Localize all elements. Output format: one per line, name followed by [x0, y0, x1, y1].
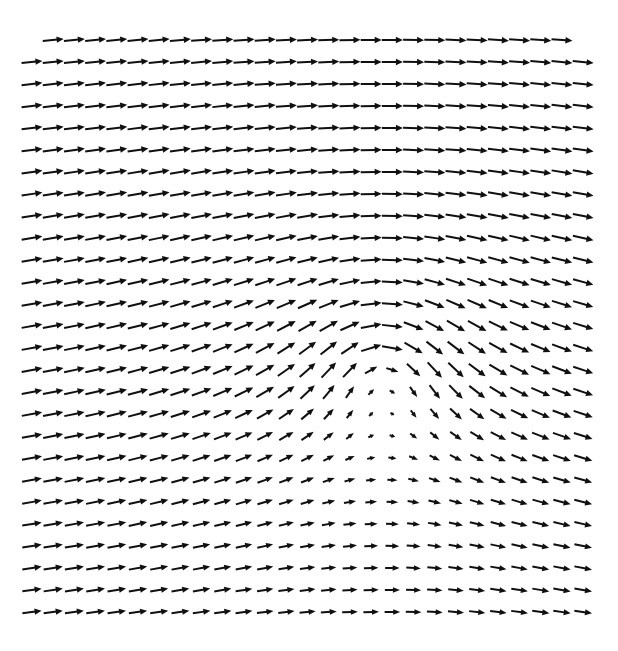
- field-arrow-shaft: [170, 237, 184, 240]
- field-arrow-head: [563, 478, 571, 484]
- field-arrow: [278, 364, 295, 376]
- field-arrow-head: [433, 477, 440, 482]
- field-arrow-shaft: [488, 214, 503, 217]
- field-arrow-head: [311, 37, 318, 43]
- field-arrow-head: [245, 477, 253, 483]
- field-arrow-shaft: [509, 39, 524, 40]
- field-arrow-head: [396, 125, 403, 131]
- field-arrow: [573, 147, 594, 153]
- field-arrow-shaft: [129, 612, 141, 614]
- field-arrow-head: [141, 322, 149, 328]
- field-arrow-head: [456, 543, 463, 548]
- field-arrow-shaft: [107, 501, 120, 504]
- field-arrow-head: [78, 36, 85, 42]
- field-arrow-shaft: [85, 105, 100, 107]
- field-arrow-shaft: [255, 128, 270, 130]
- field-arrow: [257, 409, 273, 418]
- field-arrow: [573, 59, 594, 65]
- field-arrow: [170, 58, 191, 64]
- field-arrow-head: [311, 147, 318, 153]
- field-arrow-shaft: [321, 568, 330, 569]
- field-arrow-head: [311, 168, 318, 174]
- field-arrow: [369, 412, 373, 416]
- field-arrow-head: [287, 543, 294, 549]
- field-arrow-head: [141, 124, 148, 130]
- field-arrow: [340, 300, 360, 307]
- field-arrow: [276, 212, 297, 218]
- field-arrow-head: [268, 212, 275, 218]
- field-arrow: [234, 344, 253, 353]
- field-arrow-shaft: [85, 237, 100, 240]
- field-arrow-head: [480, 213, 487, 219]
- field-arrow-shaft: [236, 568, 246, 570]
- field-arrow-shaft: [469, 567, 478, 568]
- field-arrow-shaft: [170, 171, 185, 173]
- field-arrow-shaft: [128, 215, 143, 218]
- field-arrow-head: [332, 37, 339, 43]
- field-arrow-head: [437, 302, 445, 308]
- field-arrow-shaft: [299, 345, 311, 354]
- field-arrow-shaft: [236, 501, 246, 504]
- field-arrow: [532, 455, 549, 462]
- field-arrow-shaft: [258, 457, 268, 461]
- field-arrow-shaft: [128, 303, 142, 306]
- field-arrow: [149, 278, 169, 284]
- field-arrow-shaft: [213, 259, 227, 263]
- field-arrow-head: [35, 80, 42, 86]
- field-arrow: [170, 190, 191, 196]
- field-arrow: [22, 256, 43, 262]
- field-arrow: [467, 169, 488, 175]
- field-arrow-head: [99, 168, 106, 174]
- field-arrow: [512, 455, 528, 462]
- field-arrow-shaft: [22, 62, 37, 64]
- field-arrow: [531, 257, 551, 264]
- field-arrow-head: [56, 454, 63, 460]
- field-arrow-head: [353, 37, 360, 43]
- field-arrow: [214, 410, 232, 418]
- field-arrow-shaft: [149, 127, 164, 129]
- field-arrow-shaft: [511, 432, 522, 437]
- field-arrow-shaft: [382, 346, 397, 349]
- field-arrow-shaft: [573, 149, 588, 151]
- field-arrow: [488, 257, 508, 264]
- field-arrow-shaft: [256, 324, 269, 330]
- field-arrow-shaft: [531, 366, 545, 372]
- field-arrow-shaft: [149, 347, 163, 351]
- field-arrow-shaft: [128, 237, 143, 240]
- field-arrow: [361, 125, 382, 131]
- field-arrow-head: [350, 587, 357, 593]
- field-arrow: [510, 344, 529, 353]
- field-arrow-shaft: [449, 500, 456, 502]
- field-arrow-head: [161, 498, 169, 504]
- field-arrow-head: [77, 366, 85, 372]
- field-arrow: [491, 521, 506, 527]
- field-arrow: [171, 432, 190, 439]
- field-arrow-shaft: [170, 281, 184, 285]
- field-arrow-head: [350, 543, 357, 548]
- field-arrow-shaft: [531, 322, 545, 327]
- field-arrow: [149, 344, 169, 351]
- field-arrow-shaft: [300, 367, 311, 377]
- field-arrow-shaft: [213, 215, 228, 218]
- field-arrow-head: [98, 322, 106, 328]
- field-arrow-shaft: [511, 611, 522, 612]
- field-arrow-shaft: [129, 479, 142, 482]
- field-arrow-shaft: [324, 436, 329, 440]
- field-arrow-head: [502, 81, 509, 87]
- field-arrow-head: [586, 147, 593, 153]
- field-arrow-shaft: [256, 368, 269, 375]
- field-arrow-head: [438, 235, 445, 241]
- field-arrow: [276, 168, 297, 174]
- field-arrow-head: [120, 300, 128, 306]
- field-arrow-head: [396, 191, 403, 197]
- field-arrow-head: [182, 587, 189, 593]
- field-arrow-shaft: [170, 127, 185, 129]
- field-arrow-head: [183, 146, 190, 152]
- field-arrow: [64, 146, 85, 152]
- field-arrow-head: [438, 147, 445, 153]
- field-arrow-shaft: [107, 391, 121, 394]
- field-arrow-shaft: [450, 432, 457, 437]
- field-arrow: [85, 344, 106, 350]
- field-arrow: [470, 499, 484, 504]
- field-arrow-shaft: [512, 477, 522, 480]
